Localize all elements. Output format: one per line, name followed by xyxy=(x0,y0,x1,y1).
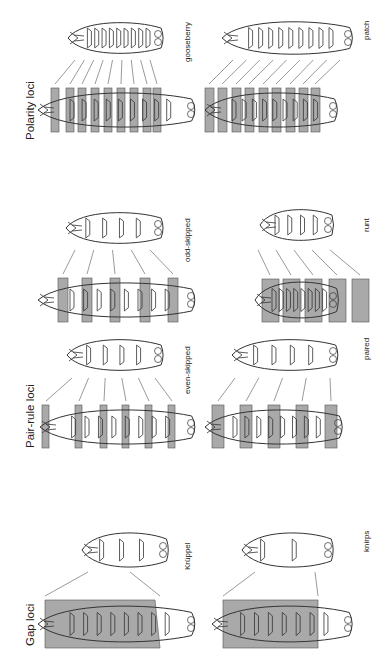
gooseberry-fan-line xyxy=(131,60,134,84)
kruppel-wildtype-larva-tail-lobe xyxy=(188,617,195,624)
odd-skipped-fan-line xyxy=(131,250,145,274)
kruppel-fan-line xyxy=(130,572,160,596)
even-skipped-mutant-larva-head-skeleton xyxy=(69,349,83,361)
even-skipped-wildtype-larva-denticle-belt xyxy=(112,416,116,438)
odd-skipped-wildtype-expression-band xyxy=(58,278,68,322)
kruppel-mutant-larva-head-skeleton xyxy=(84,544,98,556)
even-skipped-fan-line xyxy=(155,378,172,401)
paired-fan-line xyxy=(302,378,306,401)
runt-mutant-larva-denticle-belt xyxy=(313,215,317,235)
runt-mutant-larva-tail-lobe xyxy=(325,218,332,225)
even-skipped-wildtype-expression-band xyxy=(100,405,107,448)
even-skipped-fan-line xyxy=(138,378,149,401)
runt-fan-line xyxy=(276,250,291,275)
patch-mutant-larva-denticle-belt xyxy=(279,28,283,49)
paired-mutant-larva-outline xyxy=(232,340,338,371)
patch-fan-line xyxy=(249,60,273,84)
gooseberry-wildtype-expression-band xyxy=(51,88,59,132)
paired-mutant-larva-denticle-belt xyxy=(290,345,294,365)
even-skipped-wildtype-larva-denticle-belt xyxy=(139,416,143,438)
patch-mutant-larva-tail-lobe xyxy=(345,31,352,38)
kruppel-mutant-larva-denticle-belt xyxy=(100,539,104,561)
kruppel-mutant-larva-outline xyxy=(82,533,168,567)
gooseberry-mutant-larva-denticle-belt xyxy=(139,28,143,48)
odd-skipped-mutant-larva-denticle-belt xyxy=(103,218,107,238)
patch-mutant-larva-denticle-belt xyxy=(319,28,323,49)
even-skipped-wildtype-larva-tail-lobe xyxy=(188,428,195,435)
knirps-mutant-larva-tail-lobe xyxy=(325,551,332,558)
patch-wildtype-expression-band xyxy=(205,88,214,132)
paired-fan-line xyxy=(330,378,331,401)
kruppel-fan-line xyxy=(45,572,88,596)
runt-fan-line xyxy=(294,250,313,275)
even-skipped-fan-line xyxy=(122,378,126,401)
knirps-fan-line xyxy=(315,572,318,596)
odd-skipped-wildtype-larva-denticle-belt xyxy=(70,289,74,311)
patch-mutant-larva-denticle-belt xyxy=(269,28,273,49)
mutant-label-knirps: knirps xyxy=(362,531,371,552)
kruppel-wildtype-larva-tail-lobe xyxy=(188,625,195,632)
mutant-label-runt: runt xyxy=(362,217,371,232)
developmental-genes-figure: Polarity loci Pair-rule loci Gap loci go… xyxy=(0,0,389,654)
odd-skipped-mutant-larva-tail-lobe xyxy=(155,221,162,228)
odd-skipped-fan-line xyxy=(63,250,75,274)
patch-mutant-larva-denticle-belt xyxy=(249,28,253,49)
runt-fan-line xyxy=(330,250,360,275)
paired-wildtype-expression-band xyxy=(296,405,308,448)
knirps-wildtype-larva-denticle-belt xyxy=(324,612,328,635)
patch-mutant-larva-denticle-belt xyxy=(289,28,293,49)
mutant-label-patch: patch xyxy=(362,20,371,40)
runt-mutant-larva-outline xyxy=(260,210,334,241)
kruppel-wildtype-larva-denticle-belt xyxy=(165,612,169,635)
even-skipped-mutant-larva-outline xyxy=(67,340,163,371)
knirps-wildtype-larva-tail-lobe xyxy=(345,625,352,632)
knirps-mutant-larva-denticle-belt xyxy=(292,539,296,561)
gooseberry-wildtype-larva-denticle-belt xyxy=(167,99,171,121)
odd-skipped-wildtype-expression-band xyxy=(140,278,150,322)
even-skipped-wildtype-larva-denticle-belt xyxy=(152,416,156,438)
runt-wildtype-larva-denticle-belt xyxy=(301,288,305,311)
patch-mutant-larva-denticle-belt xyxy=(329,28,333,49)
patch-wildtype-larva-tail-lobe xyxy=(330,103,337,110)
odd-skipped-mutant-larva-tail-lobe xyxy=(155,229,162,236)
paired-mutant-larva-denticle-belt xyxy=(254,345,258,365)
gooseberry-mutant-larva-outline xyxy=(68,23,163,54)
gooseberry-wildtype-larva-tail-lobe xyxy=(188,111,195,118)
gooseberry-mutant-larva-denticle-belt xyxy=(117,28,121,48)
even-skipped-mutant-larva-denticle-belt xyxy=(137,345,141,365)
runt-wildtype-larva-denticle-belt xyxy=(323,288,327,311)
gooseberry-mutant-larva-tail-lobe xyxy=(155,39,162,46)
patch-mutant-larva-tail-lobe xyxy=(345,39,352,46)
odd-skipped-fan-line xyxy=(150,250,173,274)
odd-skipped-wildtype-larva-denticle-belt xyxy=(152,289,156,311)
patch-fan-line xyxy=(315,60,340,84)
patch-wildtype-expression-band xyxy=(218,88,227,132)
gooseberry-wildtype-expression-band xyxy=(104,88,112,132)
runt-mutant-larva-tail-lobe xyxy=(325,226,332,233)
runt-wildtype-expression-band xyxy=(352,279,369,322)
odd-skipped-wildtype-larva-tail-lobe xyxy=(188,301,195,308)
gooseberry-mutant-larva-denticle-belt xyxy=(95,28,99,48)
even-skipped-wildtype-expression-band xyxy=(42,405,49,448)
mutant-label-odd-skipped: odd-skipped xyxy=(183,218,192,262)
even-skipped-mutant-larva-denticle-belt xyxy=(87,345,91,365)
odd-skipped-fan-line xyxy=(87,250,94,274)
patch-mutant-larva-denticle-belt xyxy=(259,28,263,49)
gooseberry-mutant-larva-denticle-belt xyxy=(109,28,113,48)
gooseberry-fan-line xyxy=(82,60,94,84)
even-skipped-wildtype-larva-denticle-belt xyxy=(85,416,89,438)
patch-wildtype-expression-band xyxy=(232,88,241,132)
gooseberry-mutant-larva-denticle-belt xyxy=(87,28,91,48)
paired-mutant-larva-denticle-belt xyxy=(272,345,276,365)
patch-mutant-larva-head-skeleton xyxy=(224,32,238,44)
runt-mutant-larva-denticle-belt xyxy=(288,215,292,235)
patch-fan-line xyxy=(303,60,327,84)
even-skipped-wildtype-larva-tail-lobe xyxy=(188,420,195,427)
runt-fan-line xyxy=(312,250,337,275)
gooseberry-wildtype-expression-band xyxy=(130,88,138,132)
runt-fan-line xyxy=(258,250,270,275)
odd-skipped-mutant-larva-denticle-belt xyxy=(119,218,123,238)
runt-mutant-larva-denticle-belt xyxy=(301,215,305,235)
knirps-mutant-larva-denticle-belt xyxy=(261,539,265,561)
knirps-fan-line xyxy=(223,572,255,596)
